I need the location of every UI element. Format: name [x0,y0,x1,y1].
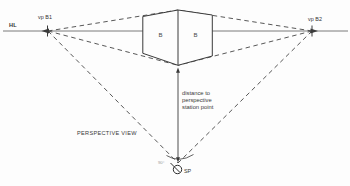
angle-label: 90° [158,160,165,165]
distance-text-line2: perspective [182,97,212,103]
vp1-arrowhead-icon [42,28,50,33]
diagram-canvas: B B vp B1 vp B2 HL distance to perspecti… [0,0,350,186]
perspective-construction-diagram: B B vp B1 vp B2 HL distance to perspecti… [0,0,350,186]
box-right-face-label: B [193,32,197,38]
distance-text-line3: station point [182,104,214,110]
distance-arrow [176,68,180,163]
distance-text-line1: distance to [182,90,210,96]
vp2-arrowhead-icon [311,28,319,33]
perspective-view-caption: PERSPECTIVE VIEW [77,130,137,136]
distance-annotation: distance to perspective station point [182,90,214,110]
station-point-label: SP [184,168,192,174]
arrow-up-icon [176,68,180,73]
horizon-label: HL [9,22,17,28]
perspective-box: B B [143,10,213,65]
vp2-label: vp B2 [308,16,322,22]
station-point: 90° SP [158,155,194,174]
vp1-label: vp B1 [38,14,52,20]
box-left-face-label: B [158,32,162,38]
view-angle-arc [167,155,194,160]
